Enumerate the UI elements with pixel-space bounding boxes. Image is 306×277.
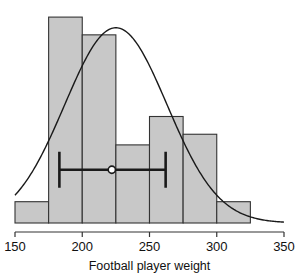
x-axis-ticks: [15, 232, 284, 237]
histogram-bars: [15, 17, 250, 223]
x-tick-label: 300: [206, 239, 228, 254]
x-tick-label: 250: [139, 239, 161, 254]
histogram-bar: [183, 134, 217, 223]
histogram-bar: [49, 17, 83, 223]
x-axis-tick-labels: 150 200 250 300 350: [4, 239, 295, 254]
histogram-plot: 150 200 250 300 350 Football player weig…: [0, 0, 306, 277]
x-tick-label: 150: [4, 239, 26, 254]
histogram-bar: [116, 145, 150, 223]
x-tick-label: 200: [71, 239, 93, 254]
x-tick-label: 350: [273, 239, 295, 254]
histogram-figure: 150 200 250 300 350 Football player weig…: [0, 0, 306, 277]
x-axis: [15, 232, 284, 237]
histogram-bar: [82, 35, 116, 223]
x-axis-title: Football player weight: [89, 259, 211, 273]
histogram-bar: [217, 202, 251, 223]
histogram-bar: [15, 202, 49, 223]
errorbar-center-marker: [108, 166, 115, 173]
